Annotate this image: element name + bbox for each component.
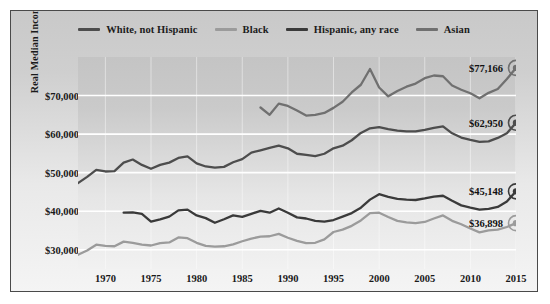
y-tick-label: $40,000 <box>10 206 79 217</box>
x-tick-label: 1970 <box>95 273 116 284</box>
x-tick-label: 1980 <box>186 273 207 284</box>
hispanic-end-label: $45,148 <box>469 186 503 197</box>
y-tick-label: $30,000 <box>10 244 79 255</box>
legend-swatch-asian <box>416 28 438 31</box>
x-tick-label: 1990 <box>277 273 298 284</box>
legend-label-white: White, not Hispanic <box>106 24 197 35</box>
legend-swatch-black <box>215 28 237 31</box>
series-line[interactable] <box>124 191 516 222</box>
legend-label-asian: Asian <box>444 24 470 35</box>
x-axis-ticks: 1970197519801985199019952000200520102015 <box>11 273 537 292</box>
white-end-label: $62,950 <box>469 117 503 128</box>
y-tick-label: $50,000 <box>10 167 79 178</box>
y-axis-ticks: $30,000$40,000$50,000$60,000$70,000 <box>11 11 79 292</box>
legend-item-black[interactable]: Black <box>215 24 269 35</box>
legend-swatch-white <box>78 28 100 31</box>
legend-item-asian[interactable]: Asian <box>416 24 470 35</box>
x-tick-label: 1995 <box>323 273 344 284</box>
chart-legend: White, not Hispanic Black Hispanic, any … <box>11 19 537 39</box>
series-line[interactable] <box>261 68 517 116</box>
legend-item-white[interactable]: White, not Hispanic <box>78 24 197 35</box>
x-tick-label: 1985 <box>232 273 253 284</box>
y-tick-label: $70,000 <box>10 90 79 101</box>
x-tick-label: 1975 <box>141 273 162 284</box>
plot-area <box>78 57 516 269</box>
series-line[interactable] <box>78 123 516 183</box>
x-tick-label: 2005 <box>414 273 435 284</box>
asian-end-label: $77,166 <box>469 62 503 73</box>
x-tick-label: 2010 <box>460 273 481 284</box>
black-end-label: $36,898 <box>469 218 503 229</box>
series-line[interactable] <box>78 213 516 255</box>
x-tick-label: 2015 <box>506 273 527 284</box>
legend-label-black: Black <box>243 24 269 35</box>
series-endpoint-marker[interactable] <box>509 216 517 231</box>
x-tick-label: 2000 <box>369 273 390 284</box>
legend-item-hispanic[interactable]: Hispanic, any race <box>286 24 399 35</box>
legend-swatch-hispanic <box>286 28 308 31</box>
series-canvas <box>78 57 516 269</box>
chart-figure: White, not Hispanic Black Hispanic, any … <box>10 10 538 292</box>
legend-label-hispanic: Hispanic, any race <box>314 24 399 35</box>
y-tick-label: $60,000 <box>10 129 79 140</box>
